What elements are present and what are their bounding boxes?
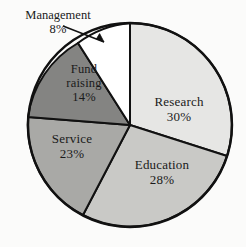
pie-chart-graphic <box>0 0 246 247</box>
pie-chart-figure: Research 30% Education 28% Service 23% F… <box>0 0 246 247</box>
